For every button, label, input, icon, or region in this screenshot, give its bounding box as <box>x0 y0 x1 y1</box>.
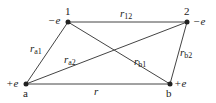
edge-label-ra2: ra2 <box>64 54 76 67</box>
edge-label-rb2-sub: b2 <box>184 51 192 60</box>
edge-label-rb2: rb2 <box>180 47 192 60</box>
edge-label-r: r <box>94 86 98 97</box>
node-1-label: 1 <box>65 6 71 17</box>
edge-ra2 <box>26 22 187 84</box>
node-b <box>168 82 173 87</box>
node-2-label: 2 <box>184 6 190 17</box>
node-2-charge: −e <box>193 16 205 27</box>
edge-label-ra1: ra1 <box>30 43 42 56</box>
node-1-charge: −e <box>48 15 60 26</box>
node-b-charge: +e <box>174 78 186 89</box>
node-b-label: b <box>166 88 172 99</box>
edge-label-r12: r12 <box>120 8 132 21</box>
edge-label-ra1-sub: a1 <box>34 47 42 56</box>
node-a-charge: +e <box>6 78 18 89</box>
edge-rb1 <box>68 22 170 84</box>
node-1 <box>66 20 71 25</box>
diagram: 1 −e 2 −e +e a +e b r12 ra1 ra2 rb1 rb2 … <box>0 0 216 103</box>
edge-label-r12-sub: 12 <box>124 12 132 21</box>
edge-label-rb1-sub: b1 <box>138 60 146 69</box>
edge-label-ra2-sub: a2 <box>68 58 76 67</box>
node-2 <box>185 20 190 25</box>
edge-label-rb1: rb1 <box>134 56 146 69</box>
node-a <box>24 82 29 87</box>
node-a-label: a <box>23 88 28 99</box>
